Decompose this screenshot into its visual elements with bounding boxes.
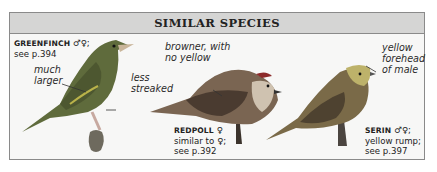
redpoll-label: REDPOLL ♀ similar to ♀; see p.392 xyxy=(174,125,226,156)
greenfinch-note-streaked: less streaked xyxy=(131,72,173,94)
serin-label: SERIN ♂♀; yellow rump; see p.397 xyxy=(365,125,421,156)
redpoll-page-ref: see p.392 xyxy=(174,146,216,156)
serin-sex-symbols: ♂♀; xyxy=(394,125,411,135)
greenfinch-note-larger: much larger xyxy=(34,64,62,86)
redpoll-note: browner, with no yellow xyxy=(165,41,230,63)
serin-description: yellow rump; xyxy=(365,136,421,146)
serin-name: SERIN xyxy=(365,126,391,135)
greenfinch-name: GREENFINCH xyxy=(14,39,70,48)
greenfinch-page-ref: see p.394 xyxy=(14,49,56,59)
serin-illustration xyxy=(266,65,376,146)
redpoll-description: similar to ♀; xyxy=(174,136,226,146)
serin-note: yellow forehead of male xyxy=(382,42,425,75)
greenfinch-label: GREENFINCH ♂♀; see p.394 xyxy=(14,38,90,59)
greenfinch-sex-symbols: ♂♀; xyxy=(73,38,90,48)
redpoll-sex-symbol: ♀ xyxy=(216,125,222,135)
serin-page-ref: see p.397 xyxy=(365,146,407,156)
redpoll-name: REDPOLL xyxy=(174,126,214,135)
